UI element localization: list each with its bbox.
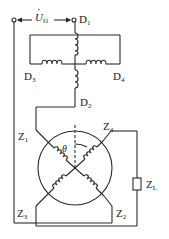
circuit-diagram: [0, 0, 169, 239]
label-z1: Z1: [18, 131, 28, 146]
left-terminal-wire: [14, 22, 36, 223]
z3-z2-short-wire: [36, 196, 112, 226]
rotor-windings: [46, 141, 104, 196]
coil-d4-icon: [86, 60, 108, 64]
label-d4: D4: [113, 71, 124, 86]
load-impedance-icon: [133, 178, 141, 190]
label-d3: D3: [24, 71, 35, 86]
label-z2: Z2: [116, 208, 126, 223]
voltage-dot: ·: [37, 4, 41, 15]
coil-d3-icon: [42, 60, 64, 64]
label-d2: D2: [80, 97, 91, 112]
left-terminal-icon: [12, 18, 16, 22]
excitation-coil-d2-icon: [75, 70, 78, 88]
label-z4: Z4: [103, 121, 113, 136]
theta-arc-icon: [75, 144, 87, 147]
label-z3: Z3: [17, 208, 27, 223]
label-theta: θ: [62, 143, 67, 154]
label-d1: D1: [79, 14, 90, 29]
excitation-coil-d1-icon: [75, 33, 78, 55]
label-zl: ZL: [146, 179, 157, 194]
voltage-label: · Uf1: [35, 12, 49, 27]
d1-terminal-icon: [72, 18, 76, 22]
